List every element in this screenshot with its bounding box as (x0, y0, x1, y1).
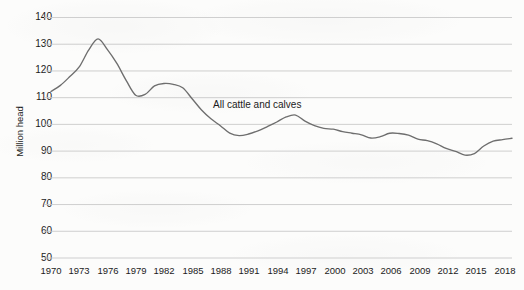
series-annotation-label: All cattle and calves (213, 99, 301, 110)
gridlines (44, 18, 512, 259)
plot-area (0, 0, 524, 290)
series-line-0 (51, 39, 512, 155)
cattle-inventory-line-chart: Million head 140 130 120 110 100 90 80 7… (0, 0, 524, 290)
data-series-group (51, 39, 512, 155)
